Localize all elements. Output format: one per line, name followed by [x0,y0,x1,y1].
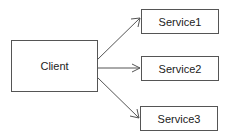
service2-node: Service2 [141,56,219,81]
service1-label: Service1 [159,16,202,28]
edge-client-service3 [97,77,139,118]
edge-client-service2 [97,64,140,72]
client-label: Client [40,60,68,72]
service1-node: Service1 [141,9,219,34]
service2-label: Service2 [159,63,202,75]
edge-client-service1 [97,18,140,60]
client-node: Client [11,40,98,92]
service3-node: Service3 [140,106,218,131]
service3-label: Service3 [158,113,201,125]
